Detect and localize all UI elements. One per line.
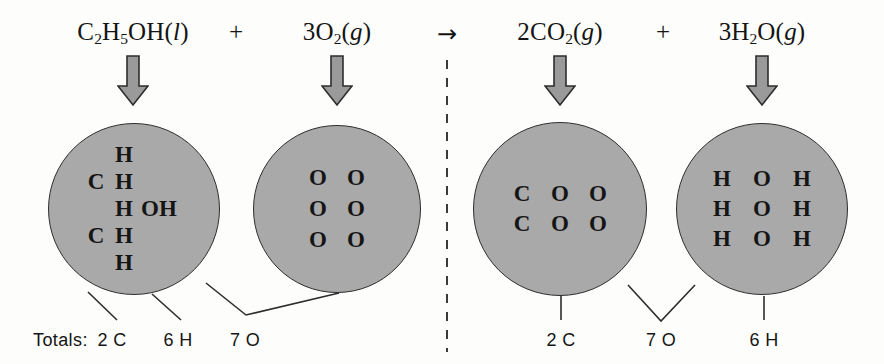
plus-sign-reactants: + xyxy=(229,18,243,46)
leader-reactant-carbon xyxy=(88,292,117,320)
total-reactant-oxygen: 7 O xyxy=(230,330,260,351)
atom-symbol: O xyxy=(551,182,569,206)
atom-symbol: H xyxy=(713,197,731,221)
atom-symbol: H xyxy=(713,227,731,251)
atom-symbol: O xyxy=(753,167,771,191)
atom-symbol: O xyxy=(551,212,569,236)
down-arrow-carbon-dioxide xyxy=(544,55,576,107)
atom-symbol: C xyxy=(88,224,105,248)
reactant-formula-ethanol: C2H5OH(l) xyxy=(77,18,188,48)
atom-symbol: O xyxy=(347,228,365,252)
atom-symbol: H xyxy=(115,224,133,248)
atom-symbol: OH xyxy=(141,197,177,221)
atom-symbol: H xyxy=(115,197,133,221)
atom-spacer xyxy=(156,143,162,167)
total-product-carbon: 2 C xyxy=(546,330,575,351)
atom-symbol: O xyxy=(347,166,365,190)
atom-symbol: H xyxy=(793,167,811,191)
molecule-circle-oxygen: OOOOOO xyxy=(253,125,421,293)
total-product-oxygen: 7 O xyxy=(646,330,676,351)
molecule-circle-carbon-dioxide: COOCOO xyxy=(473,122,647,296)
atom-symbol: O xyxy=(589,212,607,236)
atom-symbol: H xyxy=(115,143,133,167)
atom-symbol: H xyxy=(115,170,133,194)
atom-spacer xyxy=(156,251,162,275)
atom-symbol: H xyxy=(793,227,811,251)
atom-symbol: C xyxy=(514,182,531,206)
atom-spacer xyxy=(156,224,162,248)
atom-symbol: O xyxy=(753,227,771,251)
product-formula-water: 3H2O(g) xyxy=(719,18,806,48)
total-reactant-carbon: 2 C xyxy=(97,330,126,351)
atom-symbol: O xyxy=(589,182,607,206)
plus-sign-products: + xyxy=(656,18,670,46)
atom-symbol: H xyxy=(713,167,731,191)
atom-list-water: HOHHOHHOH xyxy=(677,124,847,294)
yields-arrow: → xyxy=(437,22,457,46)
atom-list-carbon-dioxide: COOCOO xyxy=(474,123,646,295)
product-formula-carbon-dioxide: 2CO2(g) xyxy=(517,18,602,48)
atom-spacer xyxy=(156,170,162,194)
leader-reactant-hydrogen xyxy=(152,294,181,320)
atom-spacer xyxy=(93,197,99,221)
atom-symbol: O xyxy=(309,228,327,252)
atom-symbol: O xyxy=(309,197,327,221)
down-arrow-oxygen xyxy=(321,55,353,107)
down-arrow-water xyxy=(746,55,778,107)
atom-spacer xyxy=(93,251,99,275)
atom-symbol: O xyxy=(309,166,327,190)
atom-symbol: C xyxy=(514,212,531,236)
molecule-circle-water: HOHHOHHOH xyxy=(676,123,848,295)
total-product-hydrogen: 6 H xyxy=(749,330,778,351)
atom-symbol: H xyxy=(115,251,133,275)
reactant-formula-oxygen: 3O2(g) xyxy=(303,18,371,48)
atom-spacer xyxy=(93,143,99,167)
down-arrow-ethanol xyxy=(117,55,149,107)
total-reactant-hydrogen: 6 H xyxy=(163,330,192,351)
atom-symbol: H xyxy=(793,197,811,221)
atom-symbol: C xyxy=(88,170,105,194)
atom-symbol: O xyxy=(753,197,771,221)
atom-list-ethanol: H CH HOHCH H xyxy=(49,124,219,294)
chemical-equation-figure: C2H5OH(l) + 3O2(g) → 2CO2(g) + 3H2O(g) H… xyxy=(0,0,884,364)
atom-list-oxygen: OOOOOO xyxy=(254,126,420,292)
molecule-circle-ethanol: H CH HOHCH H xyxy=(48,123,220,295)
atom-symbol: O xyxy=(347,197,365,221)
totals-label: Totals: xyxy=(33,330,88,351)
